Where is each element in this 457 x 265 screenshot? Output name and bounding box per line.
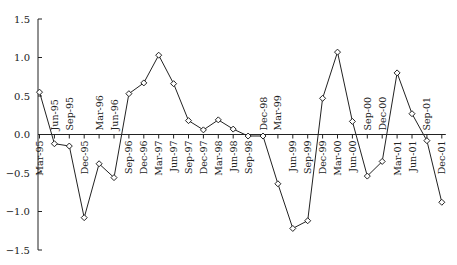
x-tick-label: Dec-01 [436,141,447,175]
x-tick-label: Mar-01 [392,141,403,176]
line-chart: 1.51.00.50.0−0.5−1.0−1.5 Mar-95Jun-95Sep… [0,0,457,265]
data-point-marker-icon [424,138,430,144]
x-tick-label: Mar-98 [213,140,224,175]
x-tick-label: Mar-99 [272,95,283,130]
data-point-marker-icon [320,95,326,101]
x-tick-label: Mar-96 [94,95,105,130]
x-tick-label: Sep-00 [362,97,373,131]
y-tick-label: 0.0 [14,129,30,140]
x-tick-label: Sep-01 [421,97,432,131]
x-tick-label: Sep-98 [243,141,254,175]
x-tick-label: Jun-99 [287,141,298,173]
data-point-marker-icon [275,181,281,187]
series-line [40,52,442,228]
x-tick-label: Jun-95 [49,99,60,131]
y-tick-label: −0.5 [6,168,30,179]
y-tick-label: 0.5 [14,91,30,102]
y-tick-label: −1.5 [6,245,30,256]
data-point-marker-icon [81,215,87,221]
x-tick-label: Jun-00 [347,141,358,173]
x-tick-label: Dec-98 [258,97,269,131]
data-point-marker-icon [290,225,296,231]
chart-canvas: 1.51.00.50.0−0.5−1.0−1.5 Mar-95Jun-95Sep… [0,0,457,265]
x-axis [38,135,446,139]
data-point-marker-icon [215,117,221,123]
x-tick-label: Jun-01 [407,141,418,173]
data-point-marker-icon [439,199,445,205]
x-tick-label: Jun-96 [109,99,120,131]
data-point-marker-icon [260,133,266,139]
x-tick-label: Dec-96 [138,141,149,175]
x-tick-label: Dec-95 [79,141,90,175]
data-point-marker-icon [186,118,192,124]
x-tick-label: Mar-95 [34,141,45,176]
x-tick-label: Dec-00 [377,97,388,131]
data-series [37,49,445,231]
data-point-marker-icon [245,133,251,139]
x-tick-label: Mar-00 [332,141,343,176]
data-point-marker-icon [335,49,341,55]
x-tick-label: Dec-97 [198,141,209,175]
x-tick-label: Dec-99 [317,141,328,175]
data-point-marker-icon [37,89,43,95]
data-point-marker-icon [66,143,72,149]
x-tick-label: Jun-98 [228,141,239,173]
data-point-marker-icon [394,70,400,76]
data-point-marker-icon [200,127,206,133]
data-point-marker-icon [305,218,311,224]
x-tick-label: Sep-95 [64,97,75,131]
data-point-marker-icon [230,126,236,132]
y-tick-label: 1.5 [14,14,30,25]
x-tick-label: Sep-99 [302,141,313,175]
x-tick-label: Mar-97 [153,141,164,176]
data-point-marker-icon [349,118,355,124]
data-point-marker-icon [171,81,177,87]
data-point-marker-icon [409,111,415,117]
y-tick-label: 1.0 [14,52,30,63]
x-tick-label: Jun-97 [168,141,179,173]
x-tick-label: Sep-97 [183,141,194,175]
y-axis: 1.51.00.50.0−0.5−1.0−1.5 [6,14,42,256]
data-point-marker-icon [51,141,57,147]
y-tick-label: −1.0 [6,206,30,217]
data-point-marker-icon [156,52,162,58]
x-tick-label: Sep-96 [123,141,134,175]
